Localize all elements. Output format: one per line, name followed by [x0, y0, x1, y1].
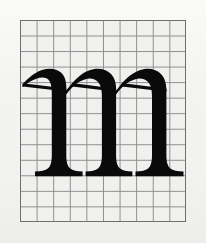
- specimen-plate: [20, 20, 186, 222]
- letter-m-glyph: [23, 69, 184, 177]
- figure-canvas: [0, 0, 206, 243]
- glyph-svg: [20, 20, 186, 222]
- glyph-layer: [20, 20, 186, 222]
